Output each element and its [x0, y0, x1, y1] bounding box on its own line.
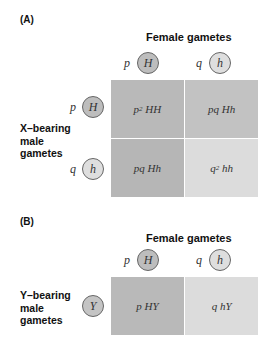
- cell-genotype: Hh: [222, 103, 235, 115]
- cell-hY: q hY: [185, 277, 258, 335]
- panel-b-female-gametes-header: Female gametes: [146, 232, 232, 244]
- panel-b-y-bearing-male-gametes-label: Y–bearing male gametes: [20, 289, 71, 327]
- panel-b-row1-allele-circle: Y: [82, 295, 104, 317]
- cell-coefficient: p: [136, 300, 142, 312]
- panel-b-col2-allele-circle: h: [209, 249, 231, 271]
- cell-genotype: HY: [144, 300, 158, 312]
- cell-genotype: hY: [220, 300, 232, 312]
- panel-a-row2-allele-circle: h: [82, 158, 104, 180]
- panel-b-col2-frequency: q: [196, 253, 202, 268]
- cell-genotype: Hh: [148, 162, 161, 174]
- cell-genotype: HH: [145, 103, 161, 115]
- cell-HH: p2 HH: [111, 80, 184, 138]
- cell-coefficient: pq: [208, 103, 219, 115]
- panel-a-punnett-square: p2 HH pq Hh pq Hh q2 hh: [111, 80, 258, 197]
- panel-a-row1-allele-circle: H: [82, 96, 104, 118]
- panel-a-row1-frequency: p: [70, 100, 76, 115]
- panel-b-col1-allele-circle: H: [137, 249, 159, 271]
- cell-genotype: hh: [222, 162, 233, 174]
- panel-a-col1-frequency: p: [124, 56, 130, 71]
- cell-Hh-top: pq Hh: [185, 80, 258, 138]
- cell-coefficient: q: [212, 300, 218, 312]
- panel-a-row2-frequency: q: [70, 162, 76, 177]
- panel-b-col1-frequency: p: [124, 253, 130, 268]
- panel-b-label: (B): [20, 216, 34, 227]
- cell-HY: p HY: [111, 277, 184, 335]
- cell-Hh-bottom: pq Hh: [111, 139, 184, 197]
- panel-a-x-bearing-male-gametes-label: X–bearing male gametes: [20, 122, 71, 160]
- panel-a-label: (A): [20, 14, 34, 25]
- cell-coefficient: q: [210, 162, 216, 174]
- cell-hh: q2 hh: [185, 139, 258, 197]
- panel-a-col2-allele-circle: h: [209, 52, 231, 74]
- panel-a-col2-frequency: q: [196, 56, 202, 71]
- panel-b-punnett-square: p HY q hY: [111, 277, 258, 335]
- panel-a-female-gametes-header: Female gametes: [146, 31, 232, 43]
- cell-coefficient: pq: [134, 162, 145, 174]
- panel-a-col1-allele-circle: H: [137, 52, 159, 74]
